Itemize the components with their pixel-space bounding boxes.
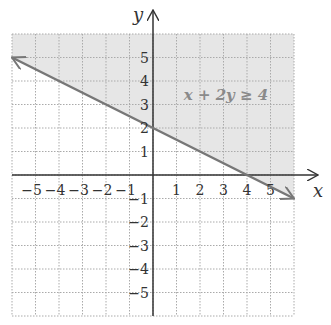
y-tick-label: 5 [140,50,149,66]
y-tick-label: −3 [128,238,149,254]
y-tick-label: 1 [140,144,149,160]
y-tick-label: −2 [128,214,149,230]
x-tick-label: −2 [92,182,113,198]
x-tick-label: 3 [219,182,228,198]
y-tick-label: −1 [128,191,149,207]
x-axis-label: x [313,180,323,201]
y-axis-label: y [132,4,144,25]
y-tick-label: 2 [140,120,149,136]
y-tick-label: 4 [140,73,149,89]
x-tick-label: −3 [68,182,89,198]
y-tick-label: −5 [128,285,149,301]
x-tick-label: 5 [266,182,275,198]
x-tick-label: −4 [45,182,66,198]
x-tick-label: 4 [243,182,252,198]
y-tick-label: −4 [128,261,149,277]
x-tick-label: 1 [172,182,181,198]
inequality-label: x + 2y ≥ 4 [183,86,269,104]
coordinate-plane: −5−4−3−2−11234554321−1−2−3−4−5xyx + 2y ≥… [0,0,331,325]
x-tick-label: 2 [196,182,205,198]
x-tick-label: −5 [21,182,42,198]
y-tick-label: 3 [140,97,149,113]
